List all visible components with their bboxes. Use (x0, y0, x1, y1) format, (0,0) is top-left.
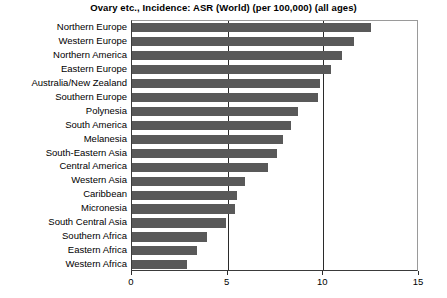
x-tick (322, 271, 323, 275)
category-label: South America (65, 118, 127, 132)
x-tick-label: 0 (128, 276, 133, 287)
bar (132, 65, 331, 74)
bar-row (132, 133, 417, 147)
category-label: Melanesia (84, 132, 127, 146)
category-label: Northern America (53, 48, 127, 62)
bar-row (132, 202, 417, 216)
bar (132, 135, 283, 144)
plot-area (131, 20, 418, 271)
bar (132, 191, 237, 200)
bar (132, 218, 226, 227)
bar-row (132, 77, 417, 91)
category-label: Eastern Europe (61, 62, 127, 76)
category-label: Southern Africa (62, 229, 127, 243)
category-label: South Central Asia (48, 215, 127, 229)
bar (132, 163, 268, 172)
category-label: Northern Europe (57, 20, 127, 34)
bar-row (132, 174, 417, 188)
bar-row (132, 230, 417, 244)
bar (132, 79, 320, 88)
bar (132, 177, 245, 186)
bar (132, 93, 318, 102)
category-label: Caribbean (83, 187, 127, 201)
chart-title: Ovary etc., Incidence: ASR (World) (per … (0, 2, 447, 13)
bar (132, 232, 207, 241)
category-label: Western Europe (59, 34, 127, 48)
x-tick-label: 10 (317, 276, 328, 287)
bar (132, 121, 291, 130)
bar-row (132, 49, 417, 63)
bar-row (132, 63, 417, 77)
category-label: Southern Europe (55, 90, 127, 104)
x-tick-label: 15 (413, 276, 424, 287)
category-label: South-Eastern Asia (46, 146, 127, 160)
bar (132, 107, 298, 116)
bar-row (132, 35, 417, 49)
category-label: Australia/New Zealand (31, 76, 127, 90)
category-label: Polynesia (86, 104, 127, 118)
x-tick (227, 271, 228, 275)
bar-row (132, 105, 417, 119)
x-tick (131, 271, 132, 275)
category-label: Western Asia (71, 173, 127, 187)
bar-row (132, 119, 417, 133)
bar-row (132, 258, 417, 272)
category-label: Micronesia (81, 201, 127, 215)
bar (132, 149, 277, 158)
category-label: Western Africa (65, 257, 127, 271)
bar (132, 204, 235, 213)
x-axis: 051015 (131, 271, 419, 297)
category-label: Central America (59, 159, 127, 173)
bar-row (132, 147, 417, 161)
bar (132, 246, 197, 255)
bar-row (132, 21, 417, 35)
bar-row (132, 216, 417, 230)
bar (132, 37, 354, 46)
bar-row (132, 160, 417, 174)
bar-row (132, 244, 417, 258)
bar-row (132, 91, 417, 105)
bar-series (132, 21, 417, 270)
x-tick-label: 5 (224, 276, 229, 287)
category-label: Eastern Africa (68, 243, 127, 257)
bar-row (132, 188, 417, 202)
bar (132, 51, 342, 60)
bar (132, 23, 371, 32)
chart-page: Ovary etc., Incidence: ASR (World) (per … (0, 0, 447, 298)
x-tick (418, 271, 419, 275)
bar (132, 260, 187, 269)
